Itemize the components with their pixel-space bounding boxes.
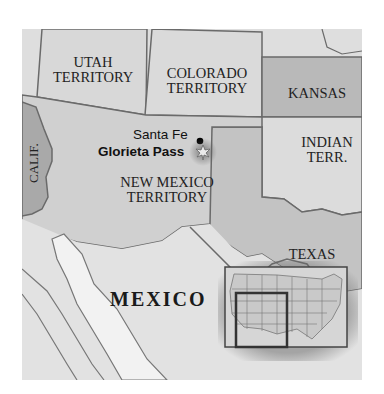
kansas-line1: KANSAS xyxy=(277,86,357,101)
utah-territory-label: UTAH TERRITORY xyxy=(53,55,133,85)
map-frame: UTAH TERRITORY COLORADO TERRITORY KANSAS… xyxy=(22,29,362,380)
colorado-territory-label: COLORADO TERRITORY xyxy=(157,66,257,96)
kansas-label: KANSAS xyxy=(277,86,357,101)
colorado-line1: COLORADO xyxy=(157,66,257,81)
indian-line2: TERR. xyxy=(297,150,357,165)
mexico-label: MEXICO xyxy=(110,288,206,311)
us-locator-inset xyxy=(225,267,347,347)
indian-line1: INDIAN xyxy=(297,135,357,150)
indian-territory-label: INDIAN TERR. xyxy=(297,135,357,165)
texas-line1: TEXAS xyxy=(277,247,347,262)
new-mexico-line2: TERRITORY xyxy=(107,190,227,205)
new-mexico-territory-label: NEW MEXICO TERRITORY xyxy=(107,175,227,205)
glorieta-pass-label: Glorieta Pass xyxy=(98,144,184,159)
new-mexico-line1: NEW MEXICO xyxy=(107,175,227,190)
california-label: CALIF. xyxy=(26,131,42,183)
santa-fe-label: Santa Fe xyxy=(133,127,188,142)
utah-line1: UTAH xyxy=(53,55,133,70)
colorado-line2: TERRITORY xyxy=(157,81,257,96)
texas-label: TEXAS xyxy=(277,247,347,262)
utah-line2: TERRITORY xyxy=(53,70,133,85)
